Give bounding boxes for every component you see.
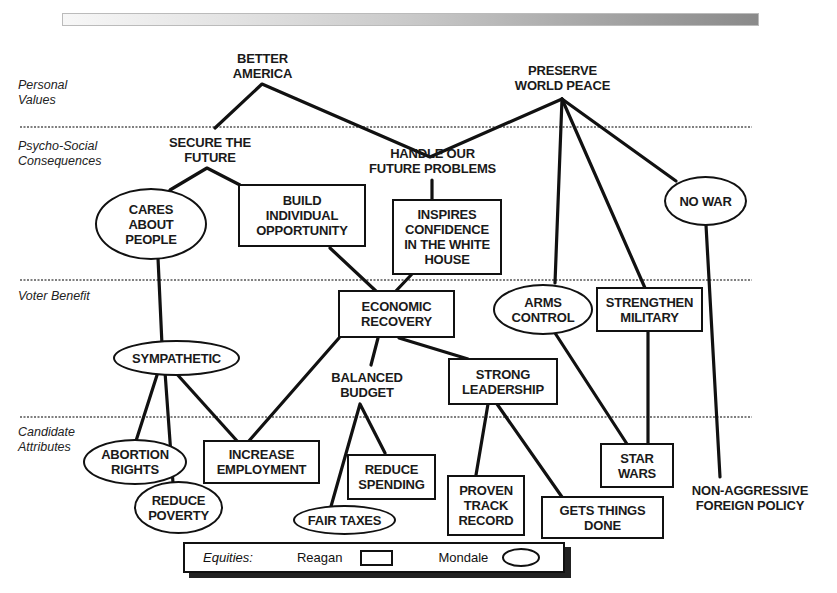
legend-reagan-rectangle-icon — [360, 550, 393, 566]
legend-reagan-label: Reagan — [297, 550, 343, 565]
legend-mondale-oval-icon — [502, 548, 540, 567]
legend-label: Equities: — [203, 550, 253, 565]
node-economic-recovery: ECONOMIC RECOVERY — [338, 290, 455, 338]
level-label-voter-benefit: Voter Benefit — [18, 289, 90, 304]
node-preserve-world-peace: PRESERVE WORLD PEACE — [500, 62, 625, 94]
level-label-candidate-attributes: Candidate Attributes — [18, 425, 75, 455]
node-non-aggressive-foreign-policy: NON-AGGRESSIVE FOREIGN POLICY — [680, 481, 820, 515]
legend-mondale-label: Mondale — [438, 550, 488, 565]
node-balanced-budget: BALANCED BUDGET — [322, 368, 412, 402]
node-abortion-rights: ABORTION RIGHTS — [83, 439, 187, 485]
node-better-america: BETTER AMERICA — [215, 50, 310, 82]
node-gets-things-done: GETS THINGS DONE — [541, 496, 664, 539]
node-arms-control: ARMS CONTROL — [493, 284, 593, 335]
node-no-war: NO WAR — [664, 176, 747, 226]
node-cares-about-people: CARES ABOUT PEOPLE — [95, 188, 207, 260]
node-secure-the-future: SECURE THE FUTURE — [155, 134, 265, 166]
node-fair-taxes: FAIR TAXES — [293, 505, 396, 535]
level-label-personal-values: Personal Values — [18, 78, 67, 108]
node-strengthen-military: STRENGTHEN MILITARY — [596, 287, 703, 332]
node-proven-track-record: PROVEN TRACK RECORD — [447, 475, 525, 536]
node-star-wars: STAR WARS — [600, 443, 674, 488]
node-handle-future-problems: HANDLE OUR FUTURE PROBLEMS — [355, 145, 510, 177]
node-sympathetic: SYMPATHETIC — [113, 340, 240, 376]
node-increase-employment: INCREASE EMPLOYMENT — [203, 440, 320, 484]
legend: Equities: Reagan Mondale — [183, 542, 565, 573]
node-reduce-spending: REDUCE SPENDING — [347, 454, 436, 500]
node-build-individual-opportunity: BUILD INDIVIDUAL OPPORTUNITY — [238, 184, 366, 247]
node-reduce-poverty: REDUCE POVERTY — [134, 481, 223, 534]
level-label-psycho-social: Psycho-Social Consequences — [18, 139, 101, 169]
node-inspires-confidence: INSPIRES CONFIDENCE IN THE WHITE HOUSE — [392, 199, 502, 275]
node-strong-leadership: STRONG LEADERSHIP — [448, 358, 558, 405]
